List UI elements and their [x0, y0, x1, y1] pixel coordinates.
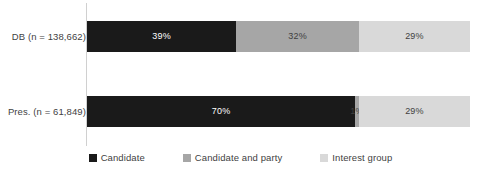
bar-segment-pres-candidate[interactable]: 70%: [87, 96, 355, 127]
legend-label: Candidate and party: [195, 152, 282, 163]
legend-item-candidate[interactable]: Candidate: [89, 152, 145, 163]
legend-label: Candidate: [101, 152, 145, 163]
y-axis-category-label-pres: Pres. (n = 61,849): [0, 106, 86, 117]
bar-segment-label: 32%: [288, 32, 307, 41]
plot-area: 39% 32% 29% 70% 1% 29%: [87, 0, 470, 150]
legend-item-interest-group[interactable]: Interest group: [320, 152, 392, 163]
bar-segment-db-candidate[interactable]: 39%: [87, 21, 236, 52]
y-axis-category-label-db: DB (n = 138,662): [0, 31, 86, 42]
legend-item-candidate-and-party[interactable]: Candidate and party: [183, 152, 282, 163]
bar-segment-label: 29%: [405, 107, 424, 116]
bar-segment-label: 70%: [212, 107, 231, 116]
bar-segment-label: 29%: [405, 32, 424, 41]
chart-legend: Candidate Candidate and party Interest g…: [0, 152, 481, 163]
legend-swatch-icon: [183, 154, 191, 162]
legend-label: Interest group: [332, 152, 392, 163]
bar-row-pres: 70% 1% 29%: [87, 96, 470, 127]
legend-swatch-icon: [320, 154, 328, 162]
bar-segment-label: 39%: [152, 32, 171, 41]
bar-segment-db-interest-group[interactable]: 29%: [359, 21, 470, 52]
bar-row-db: 39% 32% 29%: [87, 21, 470, 52]
legend-swatch-icon: [89, 154, 97, 162]
bar-segment-db-candidate-and-party[interactable]: 32%: [236, 21, 359, 52]
stacked-bar-chart: DB (n = 138,662) Pres. (n = 61,849) 39% …: [0, 0, 481, 178]
bar-segment-pres-interest-group[interactable]: 29%: [359, 96, 470, 127]
